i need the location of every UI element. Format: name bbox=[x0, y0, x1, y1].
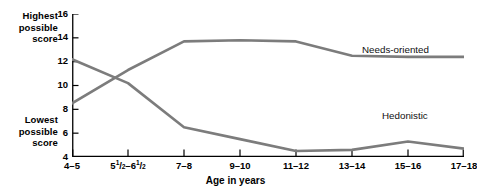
x-axis-tick-label: 11–12 bbox=[283, 160, 309, 171]
y-axis-tick-label: 10 bbox=[46, 80, 68, 90]
x-axis-tick-label: 17–18 bbox=[451, 160, 477, 171]
series-label-needs-oriented: Needs-oriented bbox=[362, 44, 429, 55]
y-axis-tick-label: 12 bbox=[46, 56, 68, 66]
x-axis-tick-label: 7–8 bbox=[176, 160, 192, 171]
x-axis-title: Age in years bbox=[0, 175, 471, 186]
series-line-hedonistic bbox=[72, 59, 464, 151]
plot-area bbox=[72, 14, 464, 157]
y-axis-tick-label: 16 bbox=[46, 9, 68, 19]
y-axis-ticks bbox=[73, 14, 79, 157]
x-axis-tick-label: 9–10 bbox=[229, 160, 250, 171]
x-axis-tick-label: 15–16 bbox=[395, 160, 421, 171]
x-axis-tick-label: 4–5 bbox=[64, 160, 80, 171]
y-axis-tick-label: 6 bbox=[46, 128, 68, 138]
y-axis-tick-label: 8 bbox=[46, 104, 68, 114]
lowest-score-line3: score bbox=[0, 137, 58, 149]
highest-score-line2: possible bbox=[0, 22, 58, 34]
x-axis-ticks bbox=[73, 150, 464, 157]
x-axis-tick-label: 51/2–61/2 bbox=[110, 160, 145, 171]
x-axis-tick-label: 13–14 bbox=[339, 160, 365, 171]
lowest-score-line1: Lowest bbox=[0, 114, 58, 126]
series-label-hedonistic: Hedonistic bbox=[382, 110, 428, 121]
y-axis-tick-label: 14 bbox=[46, 32, 68, 42]
data-series-lines bbox=[72, 40, 464, 151]
